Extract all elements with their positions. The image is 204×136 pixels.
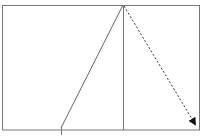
solid-diagonal-line xyxy=(61,5,123,128)
diagram-canvas xyxy=(0,0,204,136)
dashed-arrow xyxy=(124,6,195,124)
frame-rectangle xyxy=(3,6,200,131)
